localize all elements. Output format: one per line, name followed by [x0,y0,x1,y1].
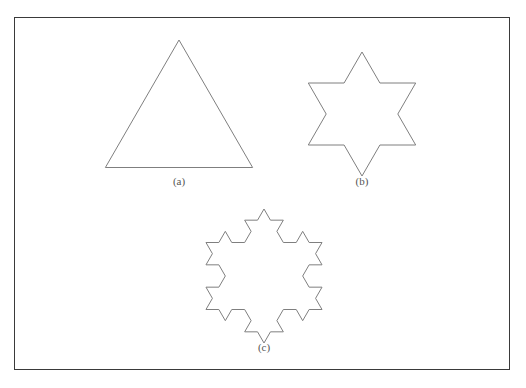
caption-a: (a) [173,175,185,187]
figure-panel [14,17,510,370]
caption-c: (c) [258,341,270,353]
caption-b: (b) [356,175,369,187]
